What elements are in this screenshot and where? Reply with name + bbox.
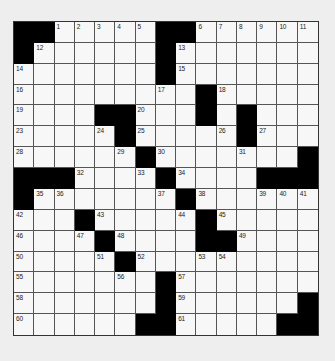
grid-cell[interactable] <box>196 314 216 335</box>
grid-cell[interactable] <box>34 64 54 85</box>
grid-cell[interactable]: 5 <box>136 22 156 43</box>
grid-cell[interactable] <box>95 168 115 189</box>
grid-cell[interactable] <box>257 293 277 314</box>
grid-cell[interactable] <box>257 64 277 85</box>
grid-cell[interactable]: 58 <box>14 293 34 314</box>
grid-cell[interactable]: 24 <box>95 126 115 147</box>
grid-cell[interactable] <box>136 272 156 293</box>
grid-cell[interactable]: 44 <box>176 210 196 231</box>
grid-cell[interactable]: 29 <box>115 147 135 168</box>
grid-cell[interactable] <box>115 168 135 189</box>
grid-cell[interactable] <box>34 210 54 231</box>
grid-cell[interactable]: 45 <box>217 210 237 231</box>
grid-cell[interactable] <box>237 43 257 64</box>
grid-cell[interactable] <box>136 293 156 314</box>
grid-cell[interactable]: 55 <box>14 272 34 293</box>
grid-cell[interactable] <box>55 85 75 106</box>
grid-cell[interactable]: 56 <box>115 272 135 293</box>
grid-cell[interactable] <box>298 64 318 85</box>
grid-cell[interactable] <box>237 314 257 335</box>
grid-cell[interactable]: 8 <box>237 22 257 43</box>
grid-cell[interactable] <box>136 43 156 64</box>
grid-cell[interactable] <box>257 85 277 106</box>
grid-cell[interactable] <box>277 85 297 106</box>
grid-cell[interactable]: 38 <box>196 189 216 210</box>
grid-cell[interactable]: 23 <box>14 126 34 147</box>
grid-cell[interactable] <box>217 105 237 126</box>
grid-cell[interactable]: 7 <box>217 22 237 43</box>
grid-cell[interactable] <box>136 85 156 106</box>
grid-cell[interactable] <box>75 85 95 106</box>
grid-cell[interactable]: 54 <box>217 252 237 273</box>
grid-cell[interactable]: 47 <box>75 231 95 252</box>
grid-cell[interactable] <box>298 105 318 126</box>
grid-cell[interactable] <box>156 210 176 231</box>
grid-cell[interactable] <box>75 64 95 85</box>
grid-cell[interactable] <box>257 210 277 231</box>
grid-cell[interactable] <box>298 126 318 147</box>
grid-cell[interactable] <box>196 272 216 293</box>
grid-cell[interactable] <box>75 293 95 314</box>
grid-cell[interactable] <box>237 210 257 231</box>
grid-cell[interactable] <box>136 189 156 210</box>
grid-cell[interactable]: 20 <box>136 105 156 126</box>
grid-cell[interactable] <box>55 272 75 293</box>
grid-cell[interactable]: 15 <box>176 64 196 85</box>
grid-cell[interactable]: 43 <box>95 210 115 231</box>
grid-cell[interactable] <box>55 314 75 335</box>
grid-cell[interactable] <box>55 231 75 252</box>
grid-cell[interactable] <box>55 252 75 273</box>
grid-cell[interactable] <box>176 252 196 273</box>
grid-cell[interactable] <box>55 64 75 85</box>
grid-cell[interactable] <box>95 85 115 106</box>
grid-cell[interactable] <box>277 126 297 147</box>
grid-cell[interactable] <box>75 105 95 126</box>
grid-cell[interactable] <box>277 147 297 168</box>
grid-cell[interactable]: 61 <box>176 314 196 335</box>
grid-cell[interactable]: 50 <box>14 252 34 273</box>
grid-cell[interactable] <box>298 231 318 252</box>
grid-cell[interactable] <box>115 293 135 314</box>
grid-cell[interactable]: 2 <box>75 22 95 43</box>
grid-cell[interactable] <box>115 43 135 64</box>
grid-cell[interactable] <box>136 64 156 85</box>
grid-cell[interactable] <box>277 272 297 293</box>
grid-cell[interactable] <box>115 189 135 210</box>
grid-cell[interactable]: 31 <box>237 147 257 168</box>
grid-cell[interactable] <box>298 252 318 273</box>
grid-cell[interactable] <box>115 210 135 231</box>
grid-cell[interactable]: 41 <box>298 189 318 210</box>
grid-cell[interactable] <box>237 85 257 106</box>
grid-cell[interactable] <box>257 231 277 252</box>
grid-cell[interactable] <box>75 252 95 273</box>
grid-cell[interactable] <box>237 293 257 314</box>
grid-cell[interactable] <box>136 231 156 252</box>
grid-cell[interactable] <box>196 43 216 64</box>
grid-cell[interactable] <box>237 64 257 85</box>
grid-cell[interactable]: 6 <box>196 22 216 43</box>
grid-cell[interactable] <box>55 43 75 64</box>
grid-cell[interactable] <box>217 64 237 85</box>
grid-cell[interactable] <box>196 64 216 85</box>
grid-cell[interactable] <box>95 272 115 293</box>
grid-cell[interactable]: 59 <box>176 293 196 314</box>
grid-cell[interactable] <box>156 126 176 147</box>
grid-cell[interactable]: 53 <box>196 252 216 273</box>
grid-cell[interactable] <box>95 64 115 85</box>
grid-cell[interactable] <box>257 105 277 126</box>
grid-cell[interactable] <box>75 147 95 168</box>
grid-cell[interactable] <box>75 126 95 147</box>
grid-cell[interactable] <box>34 147 54 168</box>
grid-cell[interactable] <box>237 272 257 293</box>
grid-cell[interactable]: 12 <box>34 43 54 64</box>
grid-cell[interactable] <box>237 189 257 210</box>
grid-cell[interactable] <box>95 147 115 168</box>
grid-cell[interactable] <box>277 105 297 126</box>
grid-cell[interactable] <box>115 64 135 85</box>
grid-cell[interactable]: 13 <box>176 43 196 64</box>
grid-cell[interactable] <box>55 126 75 147</box>
grid-cell[interactable] <box>217 43 237 64</box>
grid-cell[interactable]: 49 <box>237 231 257 252</box>
grid-cell[interactable]: 4 <box>115 22 135 43</box>
grid-cell[interactable] <box>95 293 115 314</box>
